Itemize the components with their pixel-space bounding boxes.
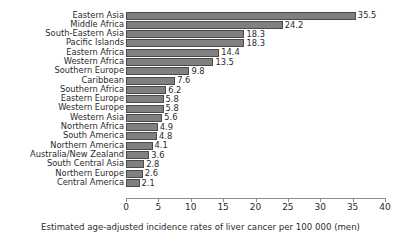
bar: 2.6 [126, 170, 143, 178]
bar: 4.1 [126, 142, 153, 150]
x-axis-title: Estimated age-adjusted incidence rates o… [0, 222, 401, 233]
bar: 4.9 [126, 123, 158, 131]
bar-fill [126, 77, 175, 85]
bar-value-label: 2.1 [142, 178, 155, 188]
bar: 5.8 [126, 95, 164, 103]
bar-fill [126, 123, 158, 131]
bar: 2.1 [126, 179, 140, 187]
bar-fill [126, 21, 283, 29]
bar-fill [126, 142, 153, 150]
x-tick [353, 198, 354, 202]
bar-fill [126, 105, 164, 113]
bar-value-label: 35.5 [358, 10, 376, 20]
bar-fill [126, 151, 149, 159]
bar: 4.8 [126, 132, 157, 140]
bar-fill [126, 179, 140, 187]
bar: 7.6 [126, 77, 175, 85]
x-tick [191, 198, 192, 202]
bar-fill [126, 30, 244, 38]
bar: 2.8 [126, 160, 144, 168]
x-tick [288, 198, 289, 202]
bar-value-label: 24.2 [285, 20, 303, 30]
x-tick [320, 198, 321, 202]
category-label: Central America [0, 177, 124, 187]
bar-fill [126, 58, 213, 66]
x-tick [158, 198, 159, 202]
bar-fill [126, 160, 144, 168]
bar-fill [126, 39, 244, 47]
bar: 18.3 [126, 30, 244, 38]
bar-fill [126, 67, 189, 75]
bar: 5.6 [126, 114, 162, 122]
bar: 24.2 [126, 21, 283, 29]
bar: 35.5 [126, 12, 356, 20]
x-tick [256, 198, 257, 202]
x-tick [126, 198, 127, 202]
bar-rows: Eastern Asia35.5Middle Africa24.2South-E… [0, 11, 401, 188]
bar: 18.3 [126, 39, 244, 47]
bar-fill [126, 12, 356, 20]
bar-value-label: 18.3 [246, 38, 264, 48]
bar: 9.8 [126, 67, 189, 75]
bar-fill [126, 170, 143, 178]
bar-value-label: 9.8 [191, 66, 204, 76]
bar-fill [126, 114, 162, 122]
bar: 13.5 [126, 58, 213, 66]
bar-fill [126, 49, 219, 57]
bar-fill [126, 86, 166, 94]
bar-fill [126, 132, 157, 140]
bar-row: Central America2.1 [0, 178, 401, 187]
bar: 14.4 [126, 49, 219, 57]
bar: 6.2 [126, 86, 166, 94]
bar: 3.6 [126, 151, 149, 159]
x-tick [223, 198, 224, 202]
bar: 5.8 [126, 105, 164, 113]
bar-value-label: 13.5 [215, 57, 233, 67]
x-tick-label: 40 [365, 202, 401, 213]
bar-fill [126, 95, 164, 103]
x-tick [385, 198, 386, 202]
liver-cancer-incidence-bar-chart: Eastern Asia35.5Middle Africa24.2South-E… [0, 0, 401, 243]
